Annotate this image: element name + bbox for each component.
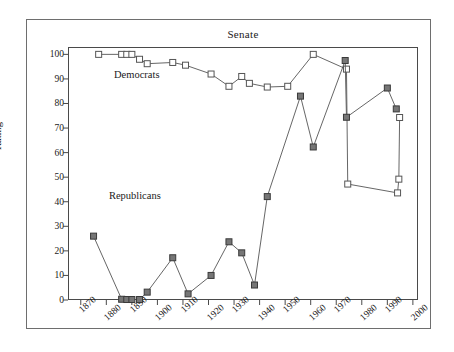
data-point-marker — [183, 62, 189, 68]
data-point-marker — [91, 233, 97, 239]
data-point-marker — [396, 176, 402, 182]
data-point-marker — [144, 61, 150, 67]
data-point-marker — [395, 190, 401, 196]
series-annotation-democrats: Democrats — [114, 69, 159, 80]
data-point-marker — [343, 114, 349, 120]
series-group — [91, 51, 403, 302]
data-point-marker — [185, 291, 191, 297]
data-point-marker — [137, 297, 143, 303]
data-point-marker — [170, 59, 176, 65]
data-point-marker — [285, 83, 291, 89]
data-point-marker — [397, 115, 403, 121]
data-point-marker — [226, 239, 232, 245]
data-point-marker — [239, 250, 245, 256]
data-point-marker — [252, 282, 258, 288]
data-point-marker — [246, 80, 252, 86]
data-point-marker — [310, 51, 316, 57]
data-point-marker — [384, 85, 390, 91]
data-point-marker — [129, 51, 135, 57]
data-point-marker — [264, 194, 270, 200]
data-point-marker — [310, 144, 316, 150]
series-annotation-republicans: Republicans — [109, 190, 161, 201]
data-point-marker — [342, 58, 348, 64]
data-point-marker — [170, 255, 176, 261]
data-point-marker — [137, 56, 143, 62]
data-point-marker — [144, 289, 150, 295]
axis-ticks — [63, 54, 413, 305]
data-point-marker — [208, 71, 214, 77]
data-point-marker — [264, 84, 270, 90]
data-point-marker — [393, 106, 399, 112]
data-point-marker — [226, 83, 232, 89]
data-point-marker — [345, 181, 351, 187]
series-line — [94, 61, 397, 300]
figure-container: Senate Rating 0102030405060708090100 187… — [0, 0, 454, 352]
data-point-marker — [239, 73, 245, 79]
data-point-marker — [208, 272, 214, 278]
data-point-marker — [96, 51, 102, 57]
plot-canvas — [0, 0, 454, 352]
data-point-marker — [297, 93, 303, 99]
series-republicans — [91, 58, 400, 303]
data-point-marker — [129, 297, 135, 303]
data-point-marker — [343, 66, 349, 72]
